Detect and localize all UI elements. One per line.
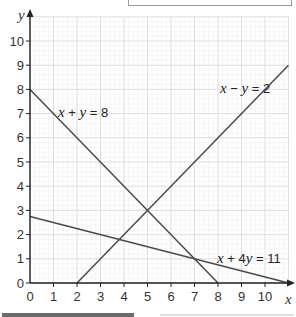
- x-axis-label: x: [284, 291, 292, 307]
- x-tick-label: 10: [258, 289, 272, 304]
- y-tick-label: 7: [17, 106, 24, 121]
- y-tick-label: 2: [17, 227, 24, 242]
- x-tick-label: 6: [167, 289, 174, 304]
- label-x-plus-y-eq-8: x + y = 8: [57, 104, 108, 120]
- x-tick-label: 3: [97, 289, 104, 304]
- minor-gridlines: [30, 17, 289, 283]
- label-x-plus-4y-eq-11: x + 4y = 11: [216, 250, 281, 266]
- x-tick-label: 0: [26, 289, 33, 304]
- y-tick-label: 1: [17, 251, 24, 266]
- x-tick-label: 4: [120, 289, 127, 304]
- major-gridlines: [30, 17, 289, 283]
- x-tick-label: 9: [238, 289, 245, 304]
- label-x-minus-y-eq-2: x − y = 2: [219, 80, 270, 96]
- y-tick-label: 9: [17, 58, 24, 73]
- bottom-frame-fragment: [2, 313, 134, 317]
- y-axis-label: y: [16, 7, 25, 23]
- y-tick-label: 6: [17, 130, 24, 145]
- x-axis-arrow-icon: [287, 280, 295, 287]
- x-tick-label: 8: [214, 289, 221, 304]
- bottom-frame-fragment-right: [160, 314, 294, 316]
- x-tick-label: 7: [191, 289, 198, 304]
- y-axis-arrow-icon: [27, 9, 34, 17]
- y-tick-label: 3: [17, 203, 24, 218]
- y-tick-label: 8: [17, 82, 24, 97]
- y-tick-label: 5: [17, 155, 24, 170]
- y-tick-label: 0: [17, 276, 24, 291]
- x-tick-label: 5: [144, 289, 151, 304]
- x-tick-label: 2: [73, 289, 80, 304]
- x-tick-label: 1: [50, 289, 57, 304]
- y-tick-label: 10: [10, 34, 24, 49]
- y-tick-label: 4: [17, 179, 24, 194]
